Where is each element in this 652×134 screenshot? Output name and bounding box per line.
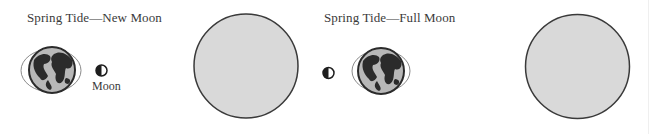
moon-new-icon [96, 65, 107, 76]
earth-full-moon-icon [352, 48, 410, 94]
sun-left-icon [194, 14, 298, 118]
edge-divider [648, 0, 649, 134]
moon-full-icon [323, 68, 334, 79]
earth-new-moon-icon [21, 47, 81, 93]
sun-right-icon [526, 15, 630, 119]
spring-tide-diagram [0, 0, 652, 134]
